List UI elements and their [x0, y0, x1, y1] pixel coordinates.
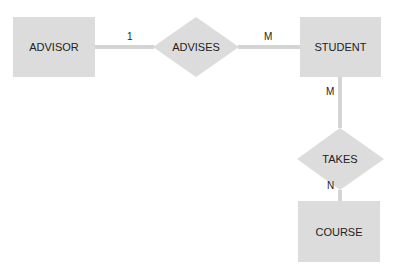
cardinality-advisor: 1 — [127, 31, 133, 42]
cardinality-course: N — [327, 180, 334, 191]
er-diagram: ADVISES TAKES ADVISOR STUDENT COURSE 1 M… — [0, 0, 396, 269]
cardinality-student-advises: M — [264, 31, 272, 42]
entity-advisor-label: ADVISOR — [29, 41, 79, 53]
entity-course: COURSE — [298, 201, 380, 262]
relationship-takes-label: TAKES — [322, 153, 357, 165]
entity-student-label: STUDENT — [315, 41, 367, 53]
cardinality-student-takes: M — [326, 86, 334, 97]
entity-student: STUDENT — [300, 17, 381, 77]
entity-course-label: COURSE — [315, 226, 362, 238]
relationship-advises-label: ADVISES — [172, 41, 220, 53]
entity-advisor: ADVISOR — [13, 17, 95, 77]
